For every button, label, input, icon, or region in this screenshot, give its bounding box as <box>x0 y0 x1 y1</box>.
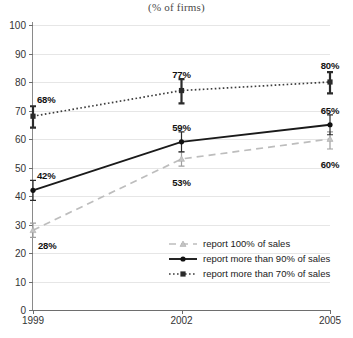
chart-container: (% of firms) 0102030405060708090100 1999… <box>0 0 353 338</box>
x-tick-label: 1999 <box>22 315 44 326</box>
y-tick-label: 100 <box>9 20 26 31</box>
chart-legend: report 100% of salesreport more than 90%… <box>168 236 330 281</box>
data-label: 28% <box>38 240 56 251</box>
y-tick-label: 50 <box>15 162 26 173</box>
data-label: 59% <box>172 122 190 133</box>
x-tick-label: 2002 <box>170 315 192 326</box>
series-2 <box>30 72 333 128</box>
legend-label: report more than 90% of sales <box>203 253 330 264</box>
data-point-marker <box>327 79 332 84</box>
y-tick-label: 70 <box>15 105 26 116</box>
x-tick-label: 2005 <box>319 315 341 326</box>
legend-label: report more than 70% of sales <box>203 268 330 279</box>
data-label: 68% <box>37 94 55 105</box>
legend-item-0[interactable]: report 100% of sales <box>168 236 330 251</box>
y-tick-label: 0 <box>20 305 26 316</box>
legend-swatch-icon <box>168 238 198 250</box>
y-tick-label: 40 <box>15 191 26 202</box>
y-tick-label: 10 <box>15 276 26 287</box>
data-point-marker <box>327 122 332 127</box>
legend-item-2[interactable]: report more than 70% of sales <box>168 266 330 281</box>
chart-title: (% of firms) <box>0 1 353 13</box>
data-point-marker <box>179 139 184 144</box>
data-label: 77% <box>172 69 190 80</box>
y-tick-label: 90 <box>15 48 26 59</box>
data-point-marker <box>179 88 184 93</box>
legend-swatch-icon <box>168 268 198 280</box>
y-tick-label: 80 <box>15 77 26 88</box>
x-tick-mark <box>33 310 34 314</box>
data-label: 42% <box>37 170 55 181</box>
legend-label: report 100% of sales <box>203 238 290 249</box>
legend-swatch-icon <box>168 253 198 265</box>
y-tick-label: 60 <box>15 134 26 145</box>
y-tick-label: 30 <box>15 219 26 230</box>
data-point-marker <box>30 188 35 193</box>
data-label: 53% <box>172 177 190 188</box>
x-tick-mark <box>182 310 183 314</box>
x-tick-mark <box>330 310 331 314</box>
data-label: 80% <box>321 60 339 71</box>
data-label: 65% <box>321 105 339 116</box>
data-label: 60% <box>321 159 339 170</box>
y-tick-label: 20 <box>15 248 26 259</box>
legend-item-1[interactable]: report more than 90% of sales <box>168 251 330 266</box>
data-point-marker <box>30 114 35 119</box>
data-point-marker <box>179 156 185 161</box>
